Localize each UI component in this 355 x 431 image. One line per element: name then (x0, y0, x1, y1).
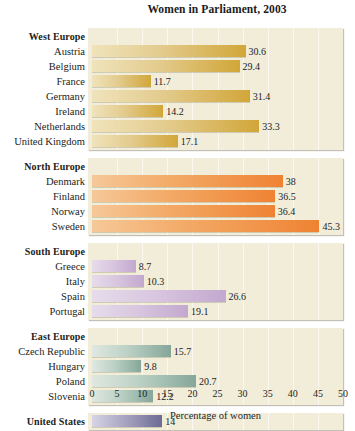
group-label-east-europe: East Europe (0, 329, 85, 344)
bar (92, 75, 151, 87)
x-tick-label: 45 (313, 388, 323, 399)
bar (92, 175, 283, 187)
bar-row: 14.2 (88, 104, 343, 119)
category-label-poland: Poland (0, 374, 85, 389)
bar-row: 36.5 (88, 189, 343, 204)
bar (92, 260, 136, 272)
bar (92, 220, 319, 232)
bar-row: 33.3 (88, 119, 343, 134)
x-tick-label: 50 (338, 388, 348, 399)
bar-row: 8.7 (88, 259, 343, 274)
category-label-austria: Austria (0, 44, 85, 59)
x-tick-label: 15 (162, 388, 172, 399)
bar-row: 38 (88, 174, 343, 189)
bar-value-label: 26.6 (229, 289, 247, 304)
x-axis: 05101520253035404550 (88, 388, 343, 402)
bar-value-label: 31.4 (253, 89, 271, 104)
bar (92, 205, 275, 217)
category-label-france: France (0, 74, 85, 89)
bar (92, 290, 226, 302)
category-label-spain: Spain (0, 289, 85, 304)
category-label-sweden: Sweden (0, 219, 85, 234)
bar (92, 45, 246, 57)
bar-row: 20.7 (88, 374, 343, 389)
bar-value-label: 45.3 (322, 219, 340, 234)
bar-row: 26.6 (88, 289, 343, 304)
bar-value-label: 10.3 (147, 274, 165, 289)
x-tick-label: 20 (187, 388, 197, 399)
category-label-united-states: United States (0, 414, 85, 429)
bar-row: 36.4 (88, 204, 343, 219)
category-label-greece: Greece (0, 259, 85, 274)
category-label-netherlands: Netherlands (0, 119, 85, 134)
bar (92, 375, 196, 387)
bar (92, 60, 240, 72)
bar-row: 17.1 (88, 134, 343, 149)
bar (92, 90, 250, 102)
x-tick-label: 40 (288, 388, 298, 399)
bar-row: 19.1 (88, 304, 343, 319)
category-label-hungary: Hungary (0, 359, 85, 374)
bar-value-label: 33.3 (262, 119, 280, 134)
category-label-ireland: Ireland (0, 104, 85, 119)
chart-canvas: Women in Parliament, 2003 30.629.411.731… (0, 0, 355, 431)
bar-value-label: 20.7 (199, 374, 217, 389)
bar-row: 30.6 (88, 44, 343, 59)
bar-value-label: 36.5 (278, 189, 296, 204)
bar-value-label: 19.1 (191, 304, 209, 319)
group-label-west-europe: West Europe (0, 29, 85, 44)
category-label-slovenia: Slovenia (0, 389, 85, 404)
bar-value-label: 14.2 (166, 104, 184, 119)
bar-row: 9.8 (88, 359, 343, 374)
bar-row: 15.7 (88, 344, 343, 359)
bar (92, 135, 178, 147)
category-label-portugal: Portugal (0, 304, 85, 319)
bar (92, 190, 275, 202)
bar (92, 120, 259, 132)
category-label-denmark: Denmark (0, 174, 85, 189)
bar-value-label: 30.6 (249, 44, 267, 59)
bar-row: 29.4 (88, 59, 343, 74)
category-label-norway: Norway (0, 204, 85, 219)
bar-value-label: 38 (286, 174, 296, 189)
category-label-czech-republic: Czech Republic (0, 344, 85, 359)
x-tick-label: 25 (213, 388, 223, 399)
bar (92, 275, 144, 287)
bar (92, 360, 141, 372)
x-tick-label: 0 (90, 388, 95, 399)
x-tick-label: 10 (137, 388, 147, 399)
x-tick-label: 30 (238, 388, 248, 399)
bar-value-label: 15.7 (174, 344, 192, 359)
bar-row: 31.4 (88, 89, 343, 104)
category-label-united-kingdom: United Kingdom (0, 134, 85, 149)
x-tick-label: 5 (115, 388, 120, 399)
panel-west-europe: 30.629.411.731.414.233.317.1 (88, 28, 343, 150)
bar-row: 10.3 (88, 274, 343, 289)
panel-south-europe: 8.710.326.619.1 (88, 243, 343, 320)
chart-title: Women in Parliament, 2003 (88, 3, 346, 15)
bar-value-label: 29.4 (243, 59, 261, 74)
x-tick-label: 35 (263, 388, 273, 399)
panel-north-europe: 3836.536.445.3 (88, 158, 343, 235)
x-axis-title: Percentage of women (88, 410, 343, 421)
bar (92, 345, 171, 357)
bar (92, 305, 188, 317)
bar-row: 11.7 (88, 74, 343, 89)
group-label-south-europe: South Europe (0, 244, 85, 259)
bar-value-label: 36.4 (278, 204, 296, 219)
category-label-belgium: Belgium (0, 59, 85, 74)
category-label-finland: Finland (0, 189, 85, 204)
bar-value-label: 11.7 (154, 74, 171, 89)
group-label-north-europe: North Europe (0, 159, 85, 174)
category-label-italy: Italy (0, 274, 85, 289)
bar (92, 105, 163, 117)
category-label-germany: Germany (0, 89, 85, 104)
bar-value-label: 8.7 (139, 259, 152, 274)
bar-value-label: 17.1 (181, 134, 199, 149)
bar-row: 45.3 (88, 219, 343, 234)
bar-value-label: 9.8 (144, 359, 157, 374)
